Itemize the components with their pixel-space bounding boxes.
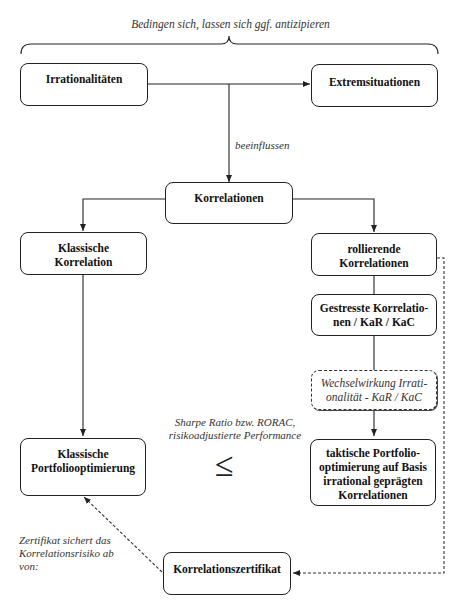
node-extremsituationen-label: Extremsituationen [329,76,420,88]
node-gestresste-line2: nen / KaR / KaC [312,315,436,329]
node-taktische-line4: Korrelationen [311,488,435,502]
node-klassische-po-line1: Klassische [21,447,145,461]
node-klassische-korrelation: Klassische Korrelation [20,232,147,275]
node-rollierende-line1: rollierende [312,242,436,256]
node-wechselwirkung-line1: Wechselwirkung Irrati- [312,376,436,390]
top-brace [21,36,438,54]
node-klassische-korrelation-line1: Klassische [21,241,146,255]
label-sharpe-line1: Sharpe Ratio bzw. RORAC, [160,416,310,429]
node-taktische-portfoliooptimierung: taktische Portfolio- optimierung auf Bas… [310,439,436,506]
node-gestresste-korrelationen: Gestresste Korrelatio- nen / KaR / KaC [311,294,437,336]
label-beeinflussen: beeinflussen [235,139,289,152]
node-korrelationszertifikat-label: Korrelationszertifikat [173,563,281,575]
label-zertifikat-note-line2: Korrelationsrisiko ab [19,547,114,560]
label-sharpe-line2: risikoadjustierte Performance [160,429,310,442]
node-klassische-portfoliooptimierung: Klassische Portfoliooptimierung [20,438,146,496]
label-zertifikat-note: Zertifikat sichert das Korrelationsrisik… [19,534,114,573]
node-taktische-line2: optimierung auf Basis [311,460,435,474]
node-taktische-line1: taktische Portfolio- [311,446,435,460]
node-rollierende-line2: Korrelationen [312,256,436,270]
node-wechselwirkung-line2: onalität - KaR / KaC [312,390,436,404]
node-irrationalitaeten: Irrationalitäten [20,63,148,106]
label-zertifikat-note-line1: Zertifikat sichert das [19,534,114,547]
node-extremsituationen: Extremsituationen [311,64,438,107]
less-or-equal-symbol: ≤ [215,448,234,482]
node-korrelationszertifikat: Korrelationszertifikat [163,552,291,595]
top-annotation: Bedingen sich, lassen sich ggf. antizipi… [0,18,461,31]
node-korrelationen: Korrelationen [165,182,293,224]
label-sharpe-ratio: Sharpe Ratio bzw. RORAC, risikoadjustier… [160,416,310,442]
node-rollierende-korrelationen: rollierende Korrelationen [311,233,437,276]
label-zertifikat-note-line3: von: [19,560,114,573]
node-korrelationen-label: Korrelationen [194,192,263,204]
node-gestresste-line1: Gestresste Korrelatio- [312,301,436,315]
node-wechselwirkung: Wechselwirkung Irrati- onalität - KaR / … [311,370,437,410]
node-klassische-korrelation-line2: Korrelation [21,255,146,269]
node-taktische-line3: irrational geprägten [311,474,435,488]
node-irrationalitaeten-label: Irrationalitäten [46,73,123,85]
node-klassische-po-line2: Portfoliooptimierung [21,461,145,475]
